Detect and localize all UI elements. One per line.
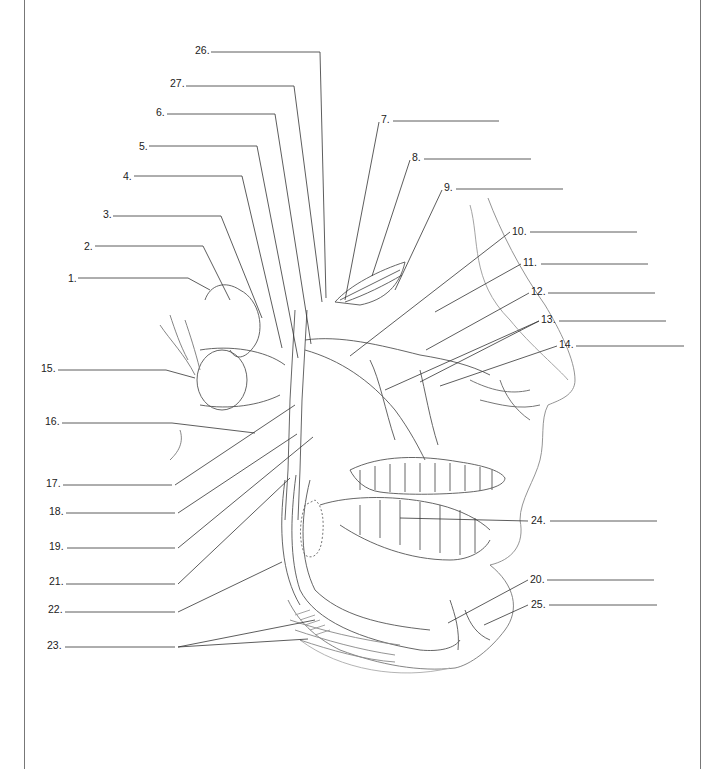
label-number-8: 8. [412,151,421,163]
label-number-5: 5. [139,140,148,152]
leader-line-24 [400,518,528,521]
leader-line-10 [350,232,510,356]
label-number-22: 22. [48,603,63,615]
label-number-4: 4. [123,170,132,182]
leader-line-16 [172,423,255,433]
leader-line-6 [275,114,311,344]
label-number-19: 19. [49,540,64,552]
leader-line-7 [345,122,379,300]
leader-line-20 [448,580,528,623]
leader-line-27 [294,86,322,302]
leader-line-12 [426,293,529,350]
leader-line-14 [440,346,557,386]
leader-line-5 [257,146,298,358]
leader-line-3 [221,216,262,318]
label-number-20: 20. [530,573,545,585]
label-number-26: 26. [195,44,210,56]
label-number-1: 1. [68,272,77,284]
leader-line-9 [395,190,442,290]
label-number-13: 13. [541,313,556,325]
label-number-14: 14. [559,338,574,350]
leader-line-17 [175,405,295,485]
label-leader-lines [58,52,684,647]
label-number-9: 9. [444,181,453,193]
label-number-2: 2. [84,240,93,252]
leader-line-21 [178,478,290,584]
label-number-17: 17. [46,477,61,489]
label-number-24: 24. [531,514,546,526]
leader-line-8 [372,160,410,276]
head-anatomy-illustration [0,0,728,769]
leader-line-19 [178,437,313,548]
leader-line-1 [188,278,210,290]
label-number-27: 27. [170,77,185,89]
label-number-25: 25. [531,598,546,610]
label-number-11: 11. [523,256,537,268]
label-number-16: 16. [45,415,60,427]
label-number-12: 12. [531,285,546,297]
label-number-18: 18. [49,505,64,517]
leader-line-15 [166,370,195,378]
leader-line-4 [242,176,282,348]
label-number-23: 23. [47,639,62,651]
label-number-21: 21. [49,575,64,587]
leader-line-26 [320,52,326,298]
leader-line-25 [484,605,528,625]
leader-line-2 [203,246,230,300]
leader-line-13 [385,321,539,390]
label-number-6: 6. [156,106,165,118]
leader-line-18 [178,434,297,513]
label-number-3: 3. [103,208,112,220]
label-number-15: 15. [41,362,56,374]
label-number-7: 7. [381,113,390,125]
label-number-10: 10. [512,225,527,237]
